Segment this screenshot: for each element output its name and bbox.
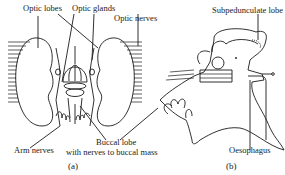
label-buccal-lobe-detail: with nerves to buccal mass <box>66 148 158 157</box>
label-optic-nerves: Optic nerves <box>114 14 157 23</box>
label-buccal-lobe: Buccal lobe <box>96 138 136 147</box>
label-arm-nerves: Arm nerves <box>14 146 54 155</box>
label-oesophagus: Oesophagus <box>229 146 271 155</box>
octopus-brain-diagram: Optic lobes Optic glands Optic nerves Ar… <box>0 0 285 175</box>
caption-panel-b: (b) <box>226 162 237 171</box>
panel-b-drawing <box>160 14 284 150</box>
panel-a-drawing <box>8 14 158 148</box>
caption-panel-a: (a) <box>68 162 78 171</box>
label-optic-lobes: Optic lobes <box>23 4 62 13</box>
label-optic-glands: Optic glands <box>72 4 115 13</box>
label-subpedunculate-lobe: Subpedunculate lobe <box>212 6 283 15</box>
